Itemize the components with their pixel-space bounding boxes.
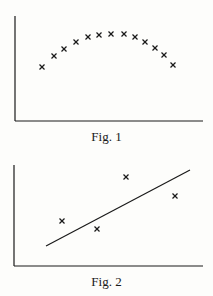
fig2-data-point — [124, 175, 129, 180]
fig2-data-point — [173, 194, 178, 199]
fig1-caption: Fig. 1 — [0, 129, 213, 145]
fig2-data-point — [60, 219, 65, 224]
fig1-data-point — [133, 35, 138, 40]
fig1-data-point — [86, 35, 91, 40]
fig1-data-point — [109, 32, 114, 37]
fig1-data-point — [62, 47, 67, 52]
fig1-data-point — [52, 54, 57, 59]
fig1-data-point — [40, 65, 45, 70]
fig1-data-point — [74, 40, 79, 45]
fig1-data-point — [171, 63, 176, 68]
fig1-data-point — [162, 53, 167, 58]
fig1-data-point — [143, 40, 148, 45]
fig2-fit-line — [46, 170, 190, 246]
fig2-data-point — [95, 227, 100, 232]
fig1-data-point — [97, 33, 102, 38]
fig1-data-point — [122, 32, 127, 37]
figures-canvas — [0, 0, 213, 296]
fig2-caption: Fig. 2 — [0, 274, 213, 290]
fig1-data-point — [153, 46, 158, 51]
